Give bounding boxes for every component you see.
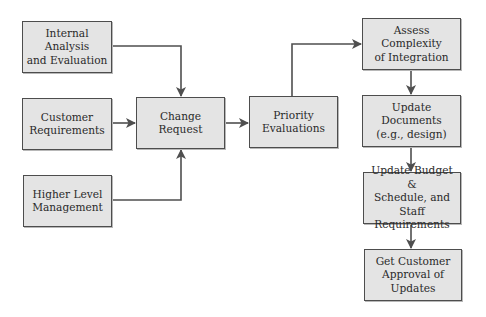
change-request-flowchart: Internal Analysis and Evaluation Custome…	[0, 0, 486, 317]
node-label: Higher Level Management	[32, 188, 103, 215]
node-label: Update Documents (e.g., design)	[365, 101, 458, 142]
node-change-request: Change Request	[136, 97, 225, 149]
node-update-budget: Update Budget & Schedule, and Staff Requ…	[363, 172, 461, 224]
edge-higher-to-change	[112, 150, 181, 200]
node-label: Change Request	[139, 110, 222, 137]
node-label: Update Budget & Schedule, and Staff Requ…	[366, 164, 458, 232]
node-label: Customer Requirements	[29, 111, 104, 138]
node-higher-level-management: Higher Level Management	[23, 175, 112, 227]
node-internal-analysis: Internal Analysis and Evaluation	[22, 21, 112, 73]
node-assess-complexity: Assess Complexity of Integration	[362, 18, 461, 70]
node-label: Get Customer Approval of Updates	[367, 255, 459, 296]
node-label: Priority Evaluations	[262, 109, 325, 136]
node-label: Internal Analysis and Evaluation	[25, 27, 109, 68]
node-priority-evaluations: Priority Evaluations	[249, 96, 338, 148]
node-customer-requirements: Customer Requirements	[22, 98, 112, 150]
edge-internal-to-change	[112, 46, 181, 96]
edge-priority-to-assess	[292, 44, 361, 96]
node-update-documents: Update Documents (e.g., design)	[362, 95, 461, 147]
node-customer-approval: Get Customer Approval of Updates	[364, 249, 462, 301]
node-label: Assess Complexity of Integration	[365, 24, 458, 65]
